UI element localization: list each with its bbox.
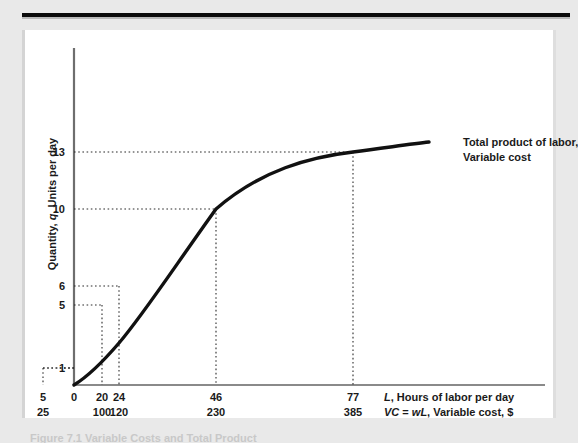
curve-annotation-line2: Variable cost: [463, 150, 578, 165]
x-axis-title-hours: L, Hours of labor per day: [384, 391, 514, 403]
y-tick-label-1: 1: [39, 362, 65, 374]
curve-annotation: Total product of labor, Variable cost: [463, 135, 578, 165]
chart-canvas: [25, 30, 553, 418]
x-axis-title-cost: VC = wL, Variable cost, $: [384, 406, 513, 418]
y-tick-label-10: 10: [39, 203, 65, 215]
total-product-curve: [74, 142, 429, 385]
x-tick-label-46: 46: [199, 391, 233, 403]
x-tick-label-77: 77: [336, 391, 370, 403]
x-tick2-label-385: 385: [336, 406, 370, 418]
x-tick-label-5: 5: [26, 391, 60, 403]
figure-panel: Quantity, q, Units per day 13 10 6 5 1 0…: [25, 30, 553, 418]
figure-caption: Figure 7.1 Variable Costs and Total Prod…: [30, 432, 257, 443]
y-tick-label-6: 6: [39, 280, 65, 292]
y-tick-label-13: 13: [39, 146, 65, 158]
y-tick-label-5: 5: [39, 299, 65, 311]
x-tick2-label-230: 230: [199, 406, 233, 418]
horizontal-guides: [43, 152, 353, 368]
curve-annotation-line1: Total product of labor,: [463, 135, 578, 150]
header-rule-shadow: [22, 17, 570, 19]
x-tick2-label-25: 25: [26, 406, 60, 418]
x-tick2-label-120: 120: [102, 406, 136, 418]
vertical-guides: [43, 152, 353, 385]
x-tick-label-24: 24: [102, 391, 136, 403]
